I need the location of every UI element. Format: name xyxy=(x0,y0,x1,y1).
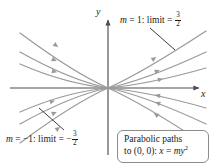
annotation-m-negative-fraction: 32 xyxy=(72,131,78,148)
x-axis-label: x xyxy=(201,88,205,99)
parabolic-paths-figure: y x m = 1: limit = 32 m = −1: limit = −3… xyxy=(0,0,216,163)
annotation-m-negative-text: = −1: limit = − xyxy=(13,134,72,144)
fraction-denominator: 2 xyxy=(72,140,78,148)
y-axis-label: y xyxy=(96,6,100,17)
arrow-marker-upper-right-1 xyxy=(151,55,158,62)
annotation-m-positive: m = 1: limit = 32 xyxy=(120,12,181,29)
caption-equation-operator: = xyxy=(164,146,174,156)
annotation-m-negative: m = −1: limit = −32 xyxy=(6,131,78,148)
annotation-m-positive-text: = 1: limit = xyxy=(127,15,175,25)
curve-lower-right-2 xyxy=(108,88,206,124)
caption-equation-rhs: my xyxy=(174,146,185,156)
fraction-denominator: 2 xyxy=(175,21,181,29)
annotation-m-negative-var: m xyxy=(6,134,13,144)
annotation-m-positive-var: m xyxy=(120,15,127,25)
curve-upper-right-1 xyxy=(108,31,206,88)
caption-line-1: Parabolic paths xyxy=(124,134,203,146)
annotation-m-positive-fraction: 32 xyxy=(175,12,181,29)
caption-equation-exponent: 2 xyxy=(185,144,188,151)
leader-line-upper xyxy=(150,28,175,50)
caption-box: Parabolic paths to (0, 0): x = my2 xyxy=(117,130,209,163)
arrow-marker-upper-left-1 xyxy=(53,42,60,49)
caption-line-2-prefix: to (0, 0): xyxy=(124,146,159,156)
arrow-marker-lower-left-2 xyxy=(51,110,58,117)
caption-line-2: to (0, 0): x = my2 xyxy=(124,146,203,158)
